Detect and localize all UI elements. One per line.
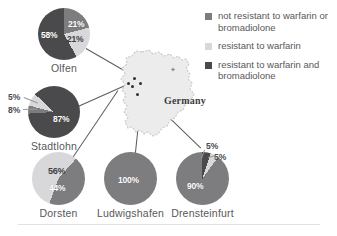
- figure-root: ✦ Germany 21% 21% 58% Olfen 87% Stadtloh…: [0, 0, 337, 236]
- pie-callout-drensteinfurt-dark-5pct: 5%: [206, 141, 218, 151]
- pie-chart-dorsten[interactable]: [32, 152, 85, 205]
- legend-label-warfarin-bromadiolone: resistant to warfarin and bromadiolone: [218, 59, 335, 82]
- map-country-label: Germany: [164, 95, 206, 106]
- pie-group-ludwigshafen: 100% Ludwigshafen: [104, 152, 157, 205]
- legend-item-not-resistant[interactable]: not resistant to warfarin or bromadiolon…: [205, 10, 335, 33]
- pie-slice-value-drensteinfurt-2: 90%: [187, 181, 203, 191]
- legend-swatch-warfarin-bromadiolone: [205, 62, 212, 69]
- pie-slice-value-dorsten-1: 44%: [49, 183, 65, 193]
- pie-label-olfen: Olfen: [51, 62, 77, 74]
- pie-chart-stadtlohn[interactable]: [28, 86, 80, 138]
- legend-swatch-not-resistant: [205, 13, 212, 20]
- pie-callout-drensteinfurt-light-5pct: 5%: [214, 152, 226, 162]
- legend-item-warfarin-bromadiolone[interactable]: resistant to warfarin and bromadiolone: [205, 59, 335, 82]
- pie-label-stadtlohn: Stadtlohn: [31, 140, 77, 152]
- pie-slice-value-ludwigshafen-0: 100%: [118, 175, 139, 185]
- pie-slice-value-olfen-1: 21%: [67, 34, 83, 44]
- capital-star-icon: ✦: [170, 66, 176, 74]
- pie-label-dorsten: Dorsten: [39, 207, 77, 219]
- figure-baseline-divider: [18, 224, 320, 225]
- pie-group-olfen: 21% 21% 58% Olfen: [38, 8, 90, 60]
- legend-label-not-resistant: not resistant to warfarin or bromadiolon…: [218, 10, 335, 33]
- pie-callout-stadtlohn-8pct: 8%: [8, 105, 20, 115]
- pie-slice-value-stadtlohn-2: 87%: [53, 114, 69, 124]
- pie-slice-value-dorsten-0: 56%: [48, 166, 65, 176]
- pie-callout-stadtlohn-5pct: 5%: [8, 92, 20, 102]
- pie-slice-value-olfen-2: 58%: [41, 30, 57, 40]
- pie-label-drensteinfurt: Drensteinfurt: [171, 207, 234, 219]
- pie-slice-value-olfen-0: 21%: [68, 19, 84, 29]
- pie-group-stadtlohn: 87% Stadtlohn: [28, 86, 80, 138]
- legend-label-warfarin: resistant to warfarin: [218, 40, 301, 52]
- legend: not resistant to warfarin or bromadiolon…: [205, 10, 335, 89]
- pie-group-dorsten: 56% 44% Dorsten: [32, 152, 85, 205]
- legend-swatch-warfarin: [205, 43, 212, 50]
- legend-item-warfarin[interactable]: resistant to warfarin: [205, 40, 335, 52]
- pie-label-ludwigshafen: Ludwigshafen: [97, 207, 164, 219]
